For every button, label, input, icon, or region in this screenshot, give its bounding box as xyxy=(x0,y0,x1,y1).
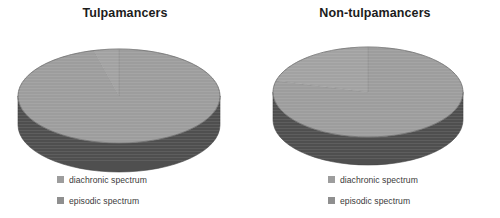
pie-3d-graphic-tulpamancers xyxy=(16,40,228,162)
legend-label-episodic: episodic spectrum xyxy=(340,196,410,206)
legend-item-episodic[interactable]: episodic spectrum xyxy=(328,193,418,208)
legend-label-diachronic: diachronic spectrum xyxy=(340,175,418,185)
legend-swatch-episodic-icon xyxy=(57,197,64,204)
legend-item-episodic[interactable]: episodic spectrum xyxy=(57,193,147,208)
legend-label-diachronic: diachronic spectrum xyxy=(69,175,147,185)
pie-chart-tulpamancers xyxy=(16,40,228,162)
page-title-tulpamancers: Tulpamancers xyxy=(0,6,250,20)
chart-panel-tulpamancers: Tulpamancers diachronic spectrum episodi… xyxy=(0,0,250,218)
pie-chart-non-tulpamancers xyxy=(272,38,484,160)
legend-item-diachronic[interactable]: diachronic spectrum xyxy=(328,172,418,187)
legend-swatch-episodic-icon xyxy=(328,197,335,204)
figure-root: Tulpamancers diachronic spectrum episodi… xyxy=(0,0,500,218)
legend-item-diachronic[interactable]: diachronic spectrum xyxy=(57,172,147,187)
legend-tulpamancers: diachronic spectrum episodic spectrum xyxy=(57,172,147,214)
legend-non-tulpamancers: diachronic spectrum episodic spectrum xyxy=(328,172,418,214)
legend-swatch-diachronic-icon xyxy=(57,176,64,183)
legend-swatch-diachronic-icon xyxy=(328,176,335,183)
pie-top-face xyxy=(18,49,220,143)
pie-3d-graphic-non-tulpamancers xyxy=(272,38,484,160)
chart-panel-non-tulpamancers: Non-tulpamancers diachronic spectrum epi… xyxy=(250,0,500,218)
legend-label-episodic: episodic spectrum xyxy=(69,196,139,206)
page-title-non-tulpamancers: Non-tulpamancers xyxy=(250,6,500,20)
pie-top-face xyxy=(273,47,463,137)
caption-strip xyxy=(0,211,500,218)
